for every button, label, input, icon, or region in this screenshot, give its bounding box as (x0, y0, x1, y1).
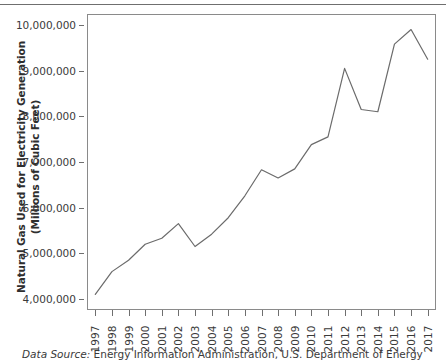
x-axis-tick-mark (361, 310, 362, 316)
x-axis-tick-mark (178, 310, 179, 316)
y-axis-labels: 4,000,0005,000,0006,000,0007,000,0008,00… (0, 0, 87, 363)
y-axis-tick-mark (79, 253, 84, 254)
y-axis-tick-label: 6,000,000 (0, 202, 76, 214)
x-axis-ticks (87, 310, 436, 317)
y-axis-tick-label: 10,000,000 (0, 19, 76, 31)
x-axis-tick-mark (328, 310, 329, 316)
x-axis-tick-mark (394, 310, 395, 316)
x-axis-tick-mark (228, 310, 229, 316)
y-axis-tick-mark (79, 71, 84, 72)
x-axis-tick-mark (245, 310, 246, 316)
x-axis-tick-mark (278, 310, 279, 316)
y-axis-tick-mark (79, 116, 84, 117)
source-caption-label: Data Source: (22, 348, 90, 360)
x-axis-tick-mark (162, 310, 163, 316)
x-axis-tick-mark (295, 310, 296, 316)
x-axis-tick-mark (145, 310, 146, 316)
x-axis-tick-mark (378, 310, 379, 316)
chart-figure: Natural Gas Used for Electricity Generat… (0, 0, 446, 363)
x-axis-tick-mark (95, 310, 96, 316)
data-series-line (87, 14, 436, 310)
source-caption-text: Energy Information Administration, U.S. … (94, 348, 423, 360)
y-axis-tick-label: 5,000,000 (0, 247, 76, 259)
x-axis-tick-label: 2017 (422, 324, 434, 354)
x-axis-tick-mark (345, 310, 346, 316)
y-axis-tick-label: 8,000,000 (0, 110, 76, 122)
x-axis-tick-mark (129, 310, 130, 316)
x-axis-tick-mark (428, 310, 429, 316)
y-axis-tick-label: 7,000,000 (0, 156, 76, 168)
x-axis-tick-mark (195, 310, 196, 316)
y-axis-tick-label: 4,000,000 (0, 293, 76, 305)
y-axis-tick-label: 9,000,000 (0, 65, 76, 77)
x-axis-tick-mark (112, 310, 113, 316)
y-axis-tick-mark (79, 25, 84, 26)
x-axis-labels: 1997199819992000200120022003200420052006… (87, 318, 436, 348)
y-axis-tick-mark (79, 299, 84, 300)
y-axis-tick-mark (79, 208, 84, 209)
source-caption: Data Source: Energy Information Administ… (22, 348, 423, 360)
x-axis-tick-mark (212, 310, 213, 316)
x-axis-tick-mark (262, 310, 263, 316)
y-axis-tick-mark (79, 162, 84, 163)
x-axis-tick-mark (411, 310, 412, 316)
x-axis-tick-mark (311, 310, 312, 316)
